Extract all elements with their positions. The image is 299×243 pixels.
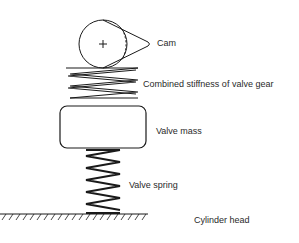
diagram-canvas: Cam Combined stiffness of valve gear Val… — [0, 0, 299, 243]
label-valve-mass: Valve mass — [156, 126, 202, 136]
label-combined-stiffness: Combined stiffness of valve gear — [143, 79, 273, 89]
valve-train-diagram: Cam Combined stiffness of valve gear Val… — [0, 0, 299, 243]
cam-lobe — [103, 20, 150, 68]
label-valve-spring: Valve spring — [129, 180, 178, 190]
cylinder-head-ground — [0, 214, 148, 220]
label-cam: Cam — [157, 38, 176, 48]
valve-spring — [86, 150, 120, 213]
combined-stiffness-spring — [66, 68, 138, 98]
cam — [79, 20, 150, 68]
valve-mass-block — [60, 106, 146, 148]
label-cylinder-head: Cylinder head — [194, 215, 250, 225]
